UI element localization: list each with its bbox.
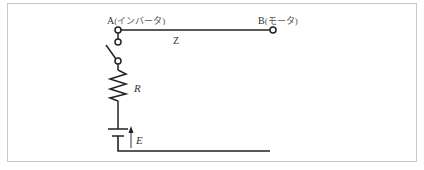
node-b-label: B(モータ) — [258, 15, 298, 26]
resistor-label: R — [133, 82, 141, 94]
impedance-label: Z — [173, 35, 179, 46]
emf-arrow-icon — [129, 126, 134, 148]
source-label: E — [135, 134, 143, 146]
resistor-icon — [110, 70, 126, 101]
node-b-terminal-icon — [270, 27, 276, 33]
battery-icon — [108, 129, 128, 136]
switch-icon — [106, 39, 121, 64]
circuit-diagram: A(インバータ) B(モータ) Z R E — [0, 0, 424, 170]
node-a-label: A(インバータ) — [107, 15, 165, 26]
node-a-terminal-icon — [115, 27, 121, 33]
